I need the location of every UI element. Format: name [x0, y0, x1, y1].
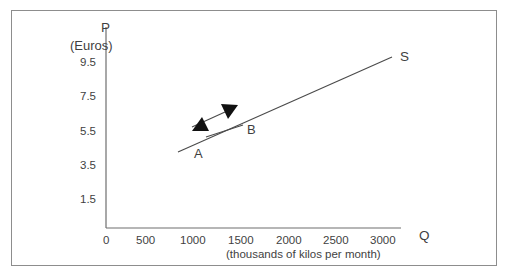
y-tick-label-5-5: 5.5 — [80, 126, 96, 138]
x-axis-unit: (thousands of kilos per month) — [226, 249, 381, 261]
figure-root: P (Euros) 9.5 7.5 5.5 3.5 1.5 0 500 1000… — [0, 0, 509, 277]
point-label-a: A — [194, 147, 203, 160]
x-tick-label-500: 500 — [136, 235, 155, 247]
x-tick-label-2500: 2500 — [323, 235, 349, 247]
y-axis-name: P — [101, 21, 110, 35]
y-tick-label-3-5: 3.5 — [80, 160, 96, 172]
y-axis-unit: (Euros) — [70, 39, 113, 52]
x-tick-label-1000: 1000 — [180, 235, 206, 247]
y-tick-label-1-5: 1.5 — [80, 194, 96, 206]
x-tick-label-0: 0 — [103, 235, 109, 247]
point-label-b: B — [247, 123, 256, 136]
x-tick-label-1500: 1500 — [228, 235, 254, 247]
y-tick-label-7-5: 7.5 — [80, 91, 96, 103]
x-tick-label-2000: 2000 — [276, 235, 302, 247]
y-tick-label-9-5: 9.5 — [80, 57, 96, 69]
top-caption — [18, 0, 488, 3]
x-tick-label-3000: 3000 — [370, 235, 396, 247]
supply-curve-label: S — [400, 50, 409, 64]
x-axis-name: Q — [419, 229, 430, 243]
